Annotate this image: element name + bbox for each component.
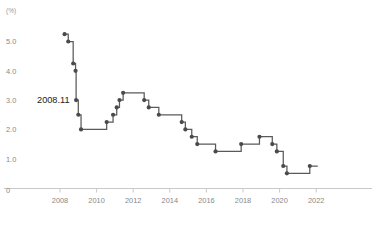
- chart-annotation-label: 2008.11: [37, 95, 70, 105]
- data-point-marker: [74, 98, 78, 102]
- data-point-marker: [71, 61, 75, 65]
- data-point-marker: [190, 135, 194, 139]
- data-point-marker: [270, 142, 274, 146]
- data-point-marker: [239, 142, 243, 146]
- data-point-marker: [121, 91, 125, 95]
- y-axis-tick-label: 4.0: [6, 67, 16, 76]
- y-axis-tick-label: 2.0: [6, 125, 16, 134]
- y-axis-tick-label: 3.0: [6, 96, 16, 105]
- data-point-marker: [73, 69, 77, 73]
- data-point-marker: [62, 32, 66, 36]
- data-point-marker: [79, 127, 83, 131]
- data-point-marker: [275, 149, 279, 153]
- x-axis-tick-label: 2014: [162, 196, 178, 205]
- unit-label-group: (%): [6, 7, 16, 15]
- data-point-marker: [76, 113, 80, 117]
- x-axis-tick-marks: [60, 189, 316, 193]
- y-axis-tick-label: 1.0: [6, 155, 16, 164]
- data-point-marker: [285, 171, 289, 175]
- data-point-marker: [115, 105, 119, 109]
- x-axis-tick-label: 2010: [88, 196, 104, 205]
- chart-container: (%) 1.02.03.04.05.0 20082010201220142016…: [0, 0, 376, 226]
- line-chart: (%) 1.02.03.04.05.0 20082010201220142016…: [0, 0, 376, 226]
- data-point-marker: [105, 120, 109, 124]
- data-point-marker: [308, 164, 312, 168]
- data-point-marker: [66, 39, 70, 43]
- data-point-marker: [281, 164, 285, 168]
- x-axis-tick-label: 2008: [52, 196, 68, 205]
- data-point-marker: [147, 105, 151, 109]
- data-point-marker: [142, 98, 146, 102]
- x-axis-tick-label: 2012: [125, 196, 141, 205]
- data-point-marker: [157, 113, 161, 117]
- x-axis-tick-label: 2022: [308, 196, 324, 205]
- data-point-marker: [257, 135, 261, 139]
- data-point-marker: [111, 113, 115, 117]
- y-axis-tick-label: 5.0: [6, 37, 16, 46]
- data-point-marker: [195, 142, 199, 146]
- data-point-marker: [117, 98, 121, 102]
- series-line: [65, 34, 318, 173]
- data-point-marker: [183, 127, 187, 131]
- x-axis-tick-label: 2020: [271, 196, 287, 205]
- y-axis-zero-label: 0: [6, 186, 10, 195]
- y-axis-unit-label: (%): [6, 7, 16, 15]
- data-series-group: [62, 32, 317, 175]
- y-axis-tick-labels: 1.02.03.04.05.0: [6, 37, 16, 163]
- data-point-marker: [213, 149, 217, 153]
- x-axis-tick-label: 2016: [198, 196, 214, 205]
- x-axis-tick-labels: 20082010201220142016201820202022: [52, 196, 325, 205]
- data-point-marker: [180, 120, 184, 124]
- annotation-group: 2008.11: [37, 95, 70, 105]
- x-axis-tick-label: 2018: [235, 196, 251, 205]
